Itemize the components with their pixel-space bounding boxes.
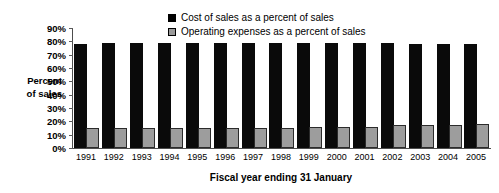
plot-area xyxy=(72,28,491,149)
bar-chart: Cost of sales as a percent of sales Oper… xyxy=(0,0,499,193)
x-axis-tick-label: 2000 xyxy=(323,152,351,162)
x-axis-tick-label: 1992 xyxy=(100,152,128,162)
bar-operating-expenses xyxy=(170,128,183,148)
bar-operating-expenses xyxy=(365,127,378,148)
bar-group xyxy=(324,28,352,148)
bar-group xyxy=(212,28,240,148)
y-axis-tick-label: 90% xyxy=(30,22,66,35)
y-axis-tick-mark xyxy=(69,95,73,96)
y-axis-tick-mark xyxy=(69,135,73,136)
bar-group xyxy=(268,28,296,148)
x-axis-tick-label: 2005 xyxy=(462,152,490,162)
bar-group xyxy=(184,28,212,148)
bar-group xyxy=(352,28,380,148)
x-axis-tick-label: 2004 xyxy=(434,152,462,162)
y-axis-tick-label: 10% xyxy=(30,129,66,142)
bar-operating-expenses xyxy=(86,128,99,148)
bar-operating-expenses xyxy=(254,128,267,148)
x-axis-tick-label: 1999 xyxy=(295,152,323,162)
x-axis-tick-label: 1993 xyxy=(128,152,156,162)
x-axis-tick-label: 1995 xyxy=(183,152,211,162)
y-axis-tick-label: 80% xyxy=(30,35,66,48)
bar-group xyxy=(101,28,129,148)
bar-operating-expenses xyxy=(281,128,294,148)
bar-group xyxy=(296,28,324,148)
bar-operating-expenses xyxy=(142,128,155,148)
x-axis-tick-label: 1991 xyxy=(72,152,100,162)
bar-operating-expenses xyxy=(198,128,211,148)
x-axis-tick-label: 2001 xyxy=(351,152,379,162)
x-axis-title: Fiscal year ending 31 January xyxy=(72,172,490,183)
legend-item-cost-of-sales: Cost of sales as a percent of sales xyxy=(168,11,398,24)
bar-group xyxy=(157,28,185,148)
y-axis-tick-mark xyxy=(69,68,73,69)
y-axis-tick-mark xyxy=(69,41,73,42)
bar-operating-expenses xyxy=(226,128,239,148)
y-axis-tick-mark xyxy=(69,28,73,29)
x-axis-tick-label: 1997 xyxy=(239,152,267,162)
bar-group xyxy=(73,28,101,148)
y-axis-tick-label: 70% xyxy=(30,49,66,62)
x-axis-tick-label: 1996 xyxy=(211,152,239,162)
bar-operating-expenses xyxy=(393,125,406,148)
legend-swatch-cost-of-sales xyxy=(168,14,176,22)
y-axis-tick-label: 0% xyxy=(30,142,66,155)
bar-operating-expenses xyxy=(114,128,127,148)
bar-group xyxy=(407,28,435,148)
y-axis-tick-mark xyxy=(69,108,73,109)
y-axis-tick-mark xyxy=(69,121,73,122)
y-axis-tick-mark xyxy=(69,55,73,56)
legend-label-cost-of-sales: Cost of sales as a percent of sales xyxy=(181,12,334,23)
bar-group xyxy=(240,28,268,148)
bar-operating-expenses xyxy=(449,125,462,148)
y-axis-tick-mark xyxy=(69,81,73,82)
y-axis-tick-label: 40% xyxy=(30,89,66,102)
y-axis-tick-label: 30% xyxy=(30,102,66,115)
x-axis-tick-label: 1998 xyxy=(267,152,295,162)
bar-group xyxy=(463,28,491,148)
bar-operating-expenses xyxy=(337,127,350,148)
bar-series-container xyxy=(73,28,491,148)
bar-group xyxy=(379,28,407,148)
bar-operating-expenses xyxy=(309,127,322,148)
y-axis-tick-label: 50% xyxy=(30,75,66,88)
x-axis-tick-label: 1994 xyxy=(156,152,184,162)
x-axis-tick-labels: 1991199219931994199519961997199819992000… xyxy=(72,152,490,162)
y-axis-tick-labels: 90%80%70%60%50%40%30%20%10%0% xyxy=(30,22,66,155)
bar-operating-expenses xyxy=(421,125,434,148)
bar-group xyxy=(435,28,463,148)
x-axis-tick-label: 2003 xyxy=(406,152,434,162)
bar-operating-expenses xyxy=(476,124,489,148)
x-axis-tick-label: 2002 xyxy=(378,152,406,162)
y-axis-tick-mark xyxy=(69,148,73,149)
bar-group xyxy=(129,28,157,148)
y-axis-tick-label: 60% xyxy=(30,62,66,75)
y-axis-tick-label: 20% xyxy=(30,115,66,128)
